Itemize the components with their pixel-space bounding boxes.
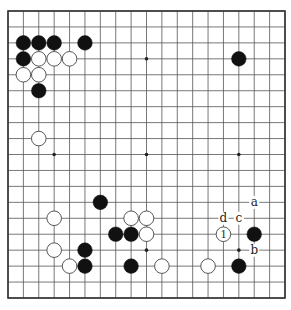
black-stone (93, 195, 108, 210)
star-point (145, 57, 149, 61)
black-stone (108, 227, 123, 242)
black-stone (78, 259, 93, 274)
star-point (237, 153, 241, 157)
black-stone (47, 36, 62, 51)
white-stone (62, 52, 77, 67)
black-stone (124, 259, 139, 274)
white-stone (31, 52, 46, 67)
white-stone (124, 211, 139, 226)
white-stone (139, 211, 154, 226)
star-point (145, 248, 149, 252)
white-stone (201, 259, 216, 274)
white-stone (47, 211, 62, 226)
white-stone (62, 259, 77, 274)
white-stone (139, 227, 154, 242)
black-stone (232, 259, 247, 274)
white-stone (47, 52, 62, 67)
black-stone (16, 36, 31, 51)
black-stone (78, 243, 93, 258)
star-point (145, 153, 149, 157)
white-stone (47, 243, 62, 258)
black-stone (78, 36, 93, 51)
black-stone (16, 52, 31, 67)
white-stone (31, 131, 46, 146)
point-label: a (251, 195, 258, 209)
point-label: d (220, 211, 228, 225)
black-stone (31, 36, 46, 51)
stone-move-number: 1 (220, 227, 226, 241)
go-board: 1 adcb (0, 0, 291, 310)
point-label: c (235, 211, 242, 225)
star-point (52, 153, 56, 157)
white-stone (16, 67, 31, 82)
star-point (237, 248, 241, 252)
black-stone (232, 52, 247, 67)
white-stone (31, 67, 46, 82)
black-stone (124, 227, 139, 242)
white-stone (155, 259, 170, 274)
point-label: b (250, 243, 258, 257)
black-stone (31, 83, 46, 98)
black-stone (247, 227, 262, 242)
